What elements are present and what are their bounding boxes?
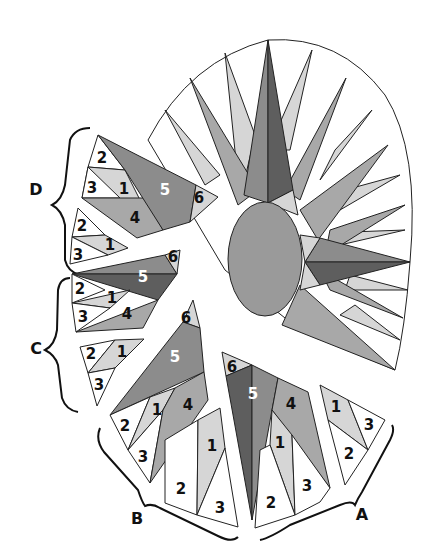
group-label-c: C: [30, 339, 42, 358]
group-label-b: B: [131, 509, 143, 528]
piece-1: 1: [107, 289, 117, 307]
center-circle: [228, 202, 302, 316]
piece-1: 1: [275, 434, 285, 452]
piece-5: 5: [160, 181, 170, 199]
piece-2: 2: [75, 280, 85, 298]
group-label-d: D: [29, 180, 42, 199]
piece-2: 2: [176, 480, 186, 498]
piece-3: 3: [87, 179, 97, 197]
group-label-a: A: [356, 505, 369, 524]
piece-5: 5: [248, 385, 258, 403]
piece-6: 6: [181, 309, 191, 327]
piece-1: 1: [119, 180, 129, 198]
piece-3: 3: [73, 246, 83, 264]
piece-1: 1: [105, 236, 115, 254]
piece-6: 6: [194, 189, 204, 207]
piece-3: 3: [364, 416, 374, 434]
piece-4: 4: [130, 209, 140, 227]
piece-2: 2: [344, 445, 354, 463]
unit-a-top: 6 5 4 1 2 3: [222, 352, 330, 528]
piece-3: 3: [78, 308, 88, 326]
piece-4: 4: [183, 396, 193, 414]
piece-3: 3: [94, 376, 104, 394]
piece-5: 5: [170, 348, 180, 366]
piece-1: 1: [152, 401, 162, 419]
group-a: 6 5 4 1 2 3 1 3 2 A: [222, 352, 393, 540]
piece-2: 2: [120, 417, 130, 435]
piece-4: 4: [122, 305, 132, 323]
piece-2: 2: [266, 494, 276, 512]
piece-1: 1: [331, 398, 341, 416]
unit-a-bottom: 1 3 2: [320, 385, 385, 485]
piece-2: 2: [97, 149, 107, 167]
piece-3: 3: [302, 477, 312, 495]
piece-6: 6: [168, 248, 178, 266]
piece-2: 2: [77, 217, 87, 235]
piece-3: 3: [138, 448, 148, 466]
group-b: 6 5 2 1 4 3 1 2 3 B: [98, 300, 238, 540]
piece-4: 4: [286, 395, 296, 413]
piece-6: 6: [227, 358, 237, 376]
piece-2: 2: [86, 345, 96, 363]
piece-5: 5: [138, 268, 148, 286]
piece-1: 1: [207, 437, 217, 455]
piece-3: 3: [215, 499, 225, 517]
piece-1: 1: [117, 343, 127, 361]
compass-diagram: 2 3 1 4 5 6 2 1 3 D 5 6 2: [0, 0, 433, 554]
